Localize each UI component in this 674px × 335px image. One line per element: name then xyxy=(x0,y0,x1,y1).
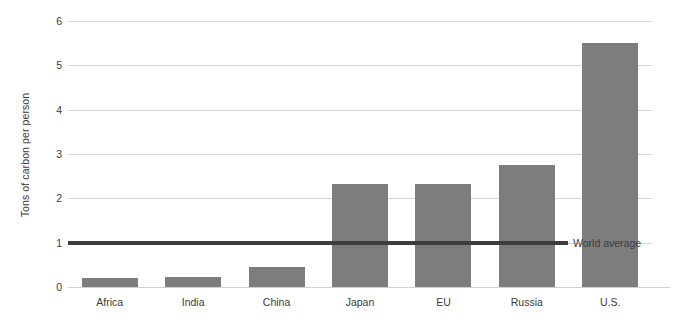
bar-slot xyxy=(485,21,568,287)
world-average-reference-line xyxy=(68,241,568,245)
bar-russia[interactable] xyxy=(499,165,555,287)
y-tick-label-3: 3 xyxy=(40,148,62,160)
gridline-0 xyxy=(68,287,670,288)
y-tick-label-6: 6 xyxy=(40,15,62,27)
y-axis-tick-labels: 0123456 xyxy=(40,21,62,287)
bar-slot xyxy=(235,21,318,287)
x-tick-label-eu: EU xyxy=(436,296,451,308)
x-tick-label-africa: Africa xyxy=(96,296,123,308)
y-axis-title: Tons of carbon per person xyxy=(14,10,36,300)
bar-slot xyxy=(68,21,151,287)
bar-slot xyxy=(402,21,485,287)
bar-slot xyxy=(151,21,234,287)
x-tick-label-japan: Japan xyxy=(346,296,375,308)
x-tick-label-russia: Russia xyxy=(511,296,543,308)
bar-chart: Tons of carbon per person 0123456 Africa… xyxy=(0,0,674,335)
bars-layer xyxy=(68,21,652,287)
y-tick-label-5: 5 xyxy=(40,59,62,71)
bar-eu[interactable] xyxy=(415,184,471,287)
x-tick-label-u-s: U.S. xyxy=(600,296,620,308)
bar-slot xyxy=(318,21,401,287)
x-tick-label-china: China xyxy=(263,296,290,308)
x-tick-label-india: India xyxy=(182,296,205,308)
y-tick-label-0: 0 xyxy=(40,281,62,293)
y-tick-label-2: 2 xyxy=(40,192,62,204)
bar-japan[interactable] xyxy=(332,184,388,287)
bar-u-s[interactable] xyxy=(582,43,638,287)
y-tick-label-4: 4 xyxy=(40,104,62,116)
world-average-label: World average xyxy=(573,237,641,249)
bar-india[interactable] xyxy=(165,277,221,287)
x-axis-tick-labels: AfricaIndiaChinaJapanEURussiaU.S. xyxy=(68,296,652,316)
y-tick-label-1: 1 xyxy=(40,237,62,249)
bar-africa[interactable] xyxy=(82,278,138,287)
bar-china[interactable] xyxy=(249,267,305,287)
